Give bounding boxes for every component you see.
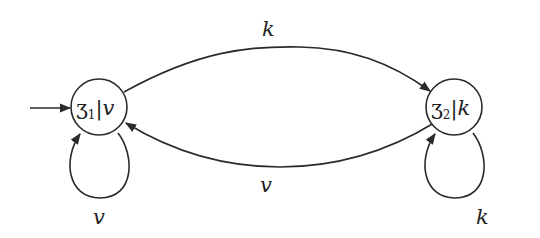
- edge-label-v-loop: v: [93, 205, 105, 229]
- edge-z2-to-z1: [126, 123, 434, 167]
- state-node-z1: ʒ1|v: [71, 79, 127, 135]
- state-label: ʒ2|k: [431, 96, 470, 122]
- state-label: ʒ1|v: [76, 96, 115, 122]
- state-diagram: ʒ1|v ʒ2|k k v v k: [0, 0, 540, 238]
- edge-label-v-bottom: v: [260, 173, 272, 197]
- edge-label-k-top: k: [262, 17, 275, 41]
- edge-label-k-loop: k: [476, 205, 489, 229]
- self-loop-z1: [70, 133, 129, 198]
- state-node-z2: ʒ2|k: [426, 79, 482, 135]
- self-loop-z2: [425, 133, 484, 198]
- edge-z1-to-z2: [124, 47, 430, 92]
